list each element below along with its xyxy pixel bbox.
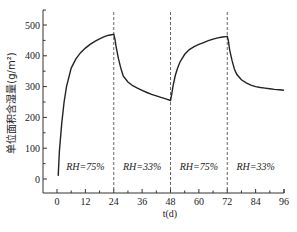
y-axis-label: 单位面积含湿量(g/m²) [5,52,17,153]
x-tick-label: 24 [109,196,119,207]
y-tick-label: 300 [25,81,40,92]
moisture-content-chart: 010020030040050001224364860728496 RH=75%… [0,0,297,232]
axes: 010020030040050001224364860728496 [25,10,289,207]
x-tick-label: 96 [279,196,289,207]
x-tick-label: 36 [137,196,147,207]
x-tick-label: 48 [166,196,176,207]
rh-annotation: RH=75% [65,161,104,172]
rh-annotation: RH=75% [179,161,218,172]
y-tick-label: 200 [25,112,40,123]
moisture-curve [58,34,284,176]
x-tick-label: 12 [80,196,90,207]
x-axis-label: t(d) [163,208,177,220]
y-tick-label: 0 [35,174,40,185]
x-tick-label: 0 [55,196,60,207]
x-tick-label: 60 [194,196,204,207]
y-tick-label: 400 [25,50,40,61]
y-tick-label: 100 [25,143,40,154]
y-tick-label: 500 [25,20,40,31]
x-tick-label: 84 [251,196,261,207]
rh-annotations: RH=75%RH=33%RH=75%RH=33% [65,161,275,172]
rh-annotation: RH=33% [235,161,274,172]
rh-annotation: RH=33% [122,161,161,172]
x-tick-label: 72 [222,196,232,207]
